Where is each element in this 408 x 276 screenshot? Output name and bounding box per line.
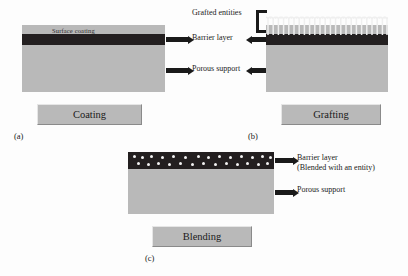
surface-coating-label: Surface coating bbox=[52, 27, 95, 34]
annotation-grafted-entities: Grafted entities bbox=[192, 8, 242, 18]
barrier-layer-b bbox=[266, 34, 388, 45]
caption-box-coating: Coating bbox=[37, 104, 142, 125]
annotation-barrier-layer-blended-line1: Barrier layer bbox=[297, 153, 338, 163]
annotation-barrier-layer-top: Barrier layer bbox=[192, 33, 233, 43]
grafted-entities-bristles bbox=[266, 14, 388, 35]
membrane-modification-figure: Surface coating Coating (a) Grafted enti… bbox=[0, 0, 408, 276]
annotation-barrier-layer-blended-line2: (Blended with an entity) bbox=[297, 163, 375, 173]
arrow-porous-support-c bbox=[275, 190, 293, 195]
caption-box-grafting: Grafting bbox=[281, 104, 381, 125]
sublabel-c: (c) bbox=[145, 253, 154, 263]
arrow-barrier-layer-c bbox=[275, 158, 293, 163]
arrow-barrier-layer-a bbox=[166, 37, 188, 42]
arrow-porous-support-b bbox=[252, 68, 266, 73]
sublabel-a: (a) bbox=[14, 131, 23, 141]
arrow-barrier-layer-b bbox=[252, 37, 266, 42]
caption-box-blending: Blending bbox=[152, 226, 252, 247]
barrier-layer-blended-c bbox=[128, 152, 274, 169]
sublabel-b: (b) bbox=[248, 131, 258, 141]
arrow-porous-support-a bbox=[166, 68, 188, 73]
annotation-porous-support-top: Porous support bbox=[192, 64, 240, 74]
annotation-porous-support-bottom: Porous support bbox=[297, 185, 345, 195]
grafted-entities-zone bbox=[266, 14, 388, 35]
barrier-layer-a bbox=[22, 34, 165, 45]
